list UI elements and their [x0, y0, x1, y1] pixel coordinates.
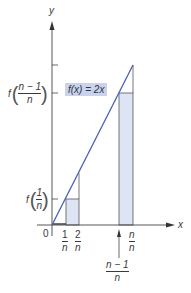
y-axis-arrow-icon — [50, 21, 55, 30]
diagram-canvas — [0, 0, 191, 293]
origin-label: 0 — [43, 229, 49, 239]
function-label: f(x) = 2x — [65, 83, 107, 96]
denominator: n — [75, 243, 81, 253]
numerator: 2 — [75, 230, 81, 240]
fraction: n − 1 n — [18, 82, 41, 105]
function-symbol: f — [8, 88, 11, 99]
x-tick-label-nn: n n — [129, 230, 135, 253]
left-paren: ( — [30, 190, 37, 210]
x-tick-label-1n: 1 n — [62, 230, 68, 253]
y-axis-label: y — [49, 6, 54, 16]
denominator: n — [27, 95, 33, 105]
pointer-arrow-icon — [117, 229, 121, 237]
x-axis-arrow-icon — [166, 223, 175, 228]
right-paren: ) — [41, 84, 48, 104]
x-tick-label-2n: 2 n — [75, 230, 81, 253]
denominator: n — [62, 243, 68, 253]
numerator: n − 1 — [106, 260, 129, 270]
x-axis-label: x — [178, 220, 183, 230]
y-tick-label-1: f ( 1 n ) — [26, 188, 49, 211]
left-paren: ( — [12, 84, 19, 104]
numerator: n — [129, 230, 135, 240]
numerator: n − 1 — [18, 82, 41, 92]
numerator: 1 — [62, 230, 68, 240]
function-symbol: f — [26, 194, 29, 205]
denominator: n — [129, 243, 135, 253]
right-paren: ) — [42, 190, 49, 210]
y-tick-label-n-minus-1: f ( n − 1 n ) — [8, 82, 48, 105]
rectangle-bar-first — [66, 199, 79, 225]
rectangle-bar-last — [119, 93, 133, 225]
denominator: n — [114, 273, 120, 283]
pointer-label: n − 1 n — [106, 260, 129, 283]
